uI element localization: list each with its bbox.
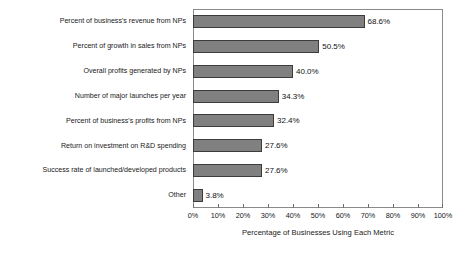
category-label: Number of major launches per year xyxy=(75,92,186,101)
x-axis-tick-label: 20% xyxy=(236,211,251,220)
x-axis-tick-label: 70% xyxy=(361,211,376,220)
x-axis-tick xyxy=(343,204,344,208)
bar-value-label: 34.3% xyxy=(282,90,305,103)
bar-value-label: 27.6% xyxy=(265,139,288,152)
x-axis-tick-label: 90% xyxy=(411,211,426,220)
x-axis-tick xyxy=(368,204,369,208)
x-axis-tick-label: 0% xyxy=(188,211,199,220)
x-axis-tick xyxy=(393,204,394,208)
bar xyxy=(193,139,262,152)
x-axis-tick-label: 60% xyxy=(336,211,351,220)
x-axis-tick xyxy=(293,204,294,208)
plot-area: 68.6%50.5%40.0%34.3%32.4%27.6%27.6%3.8% xyxy=(193,9,443,208)
bar xyxy=(193,40,319,53)
bar xyxy=(193,15,365,28)
bar xyxy=(193,114,274,127)
category-label: Percent of business's revenue from NPs xyxy=(60,17,186,26)
category-label: Percent of business's profits from NPs xyxy=(66,117,186,126)
bar xyxy=(193,90,279,103)
x-axis-tick-label: 100% xyxy=(434,211,453,220)
x-axis-tick xyxy=(193,204,194,208)
x-axis-tick-label: 40% xyxy=(286,211,301,220)
category-axis-labels: Percent of business's revenue from NPsPe… xyxy=(0,9,190,208)
x-axis-tick xyxy=(268,204,269,208)
x-axis-tick-label: 80% xyxy=(386,211,401,220)
bar-value-label: 27.6% xyxy=(265,164,288,177)
x-axis-tick xyxy=(318,204,319,208)
bar-value-label: 32.4% xyxy=(277,114,300,127)
x-axis-tick xyxy=(418,204,419,208)
x-axis-tick-label: 50% xyxy=(311,211,326,220)
x-axis-tick-label: 30% xyxy=(261,211,276,220)
bar xyxy=(193,65,293,78)
x-axis-title: Percentage of Businesses Using Each Metr… xyxy=(193,228,443,238)
bar-value-label: 50.5% xyxy=(322,40,345,53)
bar xyxy=(193,164,262,177)
x-axis-tick xyxy=(442,204,443,208)
bar xyxy=(193,189,203,202)
x-axis-tick xyxy=(218,204,219,208)
category-label: Return on investment on R&D spending xyxy=(61,142,186,151)
category-label: Success rate of launched/developed produ… xyxy=(42,166,186,175)
category-label: Other xyxy=(168,191,186,200)
bar-chart: Percent of business's revenue from NPsPe… xyxy=(0,0,471,258)
x-axis-tick-label: 10% xyxy=(211,211,226,220)
category-label: Percent of growth in sales from NPs xyxy=(73,42,186,51)
bar-value-label: 68.6% xyxy=(368,15,391,28)
bar-value-label: 3.8% xyxy=(206,189,224,202)
category-label: Overall profits generated by NPs xyxy=(83,67,186,76)
x-axis-tick xyxy=(243,204,244,208)
bar-value-label: 40.0% xyxy=(296,65,319,78)
